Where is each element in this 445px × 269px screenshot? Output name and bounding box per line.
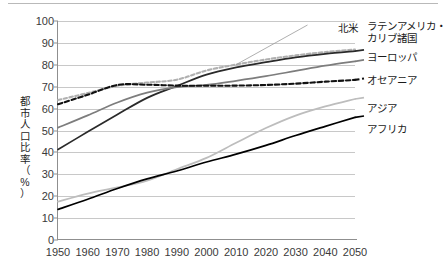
y-axis-tick-label: 60 [42,103,54,115]
series-label-europe: ヨーロッパ [367,52,417,64]
series-label-asia: アジア [367,103,397,115]
series-line-オセアニア [58,80,355,104]
series-label-latin-america-line1: ラテンアメリカ・ [367,21,445,33]
x-axis-tick-label: 2030 [283,246,307,258]
plot-area: 0102030405060708090100 19501960197019801… [58,21,355,240]
series-connector-オセアニア [355,79,364,80]
y-axis-tick-label: 90 [42,37,54,49]
x-axis-tick-label: 1970 [105,246,129,258]
x-axis-tick-label: 1980 [135,246,159,258]
x-axis-tick-label: 1960 [75,246,99,258]
y-axis-tick-label: 80 [42,59,54,71]
series-connector-アフリカ [355,116,364,117]
y-axis-title-char: 人 [18,119,32,131]
series-label-latin-america-line2: カリブ諸国 [367,33,417,45]
x-axis-tick-label: 2020 [254,246,278,258]
series-line-アフリカ [58,117,355,209]
y-axis-tick-label: 20 [42,190,54,202]
y-axis-tick-label: 70 [42,81,54,93]
y-axis-tick-label: 30 [42,168,54,180]
series-label-north-america: 北米 [338,20,358,35]
page-top-rule [8,3,438,4]
series-connector-ラテンアメリカ・カリブ諸国 [355,50,364,51]
x-axis-tick-label: 2010 [224,246,248,258]
x-axis-tick-label: 1990 [165,246,189,258]
x-axis-tick-label: 1950 [46,246,70,258]
series-line-ラテンアメリカ・カリブ諸国 [58,51,355,149]
x-axis-tick-label: 2050 [343,246,367,258]
series-connector-ヨーロッパ [355,60,364,61]
y-axis-title-char: ） [18,188,32,200]
y-axis-tick-label: 100 [36,15,54,27]
series-lines [58,21,355,240]
series-line-アジア [58,99,355,202]
y-axis-tick-label: 40 [42,146,54,158]
series-label-africa: アフリカ [367,124,407,136]
series-connector-アジア [355,98,364,99]
chart-page: 都市人口比率（%） 0102030405060708090100 1950196… [0,0,445,269]
y-axis-tick-label: 10 [42,212,54,224]
y-axis-title: 都市人口比率（%） [18,96,32,200]
y-axis-tick-label: 50 [42,125,54,137]
y-axis-title-char: 比 [18,142,32,154]
series-label-oceania: オセアニア [367,75,417,87]
x-axis-tick-label: 2000 [194,246,218,258]
x-axis-tick-label: 2040 [313,246,337,258]
y-axis-title-char: （ [18,165,32,177]
y-axis-title-char: 都 [18,96,32,108]
